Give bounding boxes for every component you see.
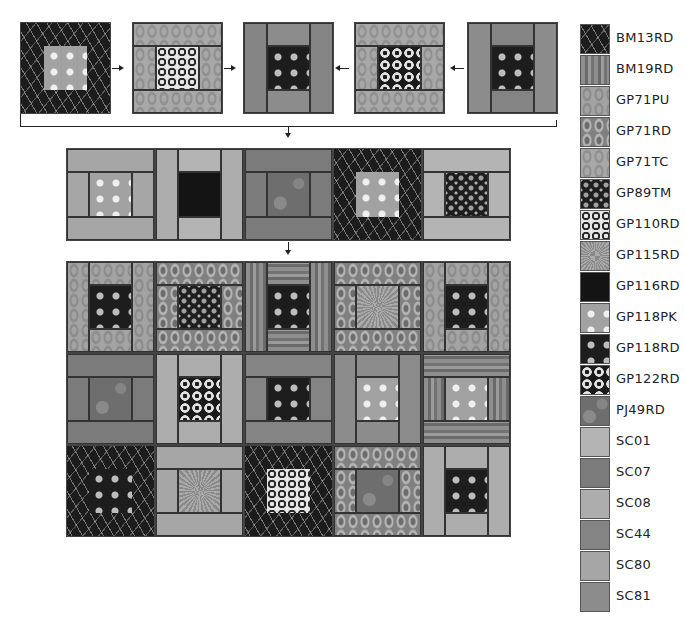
legend-label: SC81 xyxy=(616,588,651,603)
left-strip xyxy=(423,262,445,352)
quilt-block-r2c4 xyxy=(333,353,422,445)
center-square xyxy=(89,172,132,217)
fabric-swatch xyxy=(580,427,610,457)
right-strip xyxy=(132,172,154,217)
top-strip xyxy=(423,149,510,172)
center-square xyxy=(267,285,310,329)
middle-block-1 xyxy=(66,148,155,241)
arrow-shaft xyxy=(340,68,349,69)
bottom-strip xyxy=(133,90,222,113)
fabric-swatch xyxy=(580,551,610,581)
middle-block-2 xyxy=(155,148,244,241)
left-strip xyxy=(156,149,178,240)
center-square xyxy=(178,172,221,217)
top-strip xyxy=(245,149,332,172)
fabric-swatch xyxy=(580,582,610,612)
bottom-strip xyxy=(156,513,243,536)
arrow-left-icon xyxy=(450,65,455,71)
top-strip xyxy=(156,262,243,285)
middle-block-3 xyxy=(244,148,333,241)
arrow-shaft xyxy=(288,242,289,250)
left-strip xyxy=(244,23,267,113)
right-strip xyxy=(534,23,557,113)
left-strip xyxy=(156,354,178,444)
quilt-block-r1c3 xyxy=(244,261,333,353)
quilt-block-r2c3 xyxy=(244,353,333,445)
legend-label: BM19RD xyxy=(616,61,674,76)
top-strip xyxy=(89,262,132,285)
right-strip xyxy=(488,262,510,352)
bracket-right xyxy=(556,120,557,127)
center-square xyxy=(445,172,488,217)
center-square xyxy=(356,172,399,217)
legend-item: GP115RD xyxy=(580,241,680,271)
right-strip xyxy=(199,46,222,90)
right-strip xyxy=(310,377,332,421)
bottom-strip xyxy=(356,421,399,444)
center-square xyxy=(445,377,488,421)
center-square xyxy=(267,377,310,421)
legend-item: GP71TC xyxy=(580,148,680,178)
right-strip xyxy=(221,469,243,513)
legend-item: PJ49RD xyxy=(580,396,680,426)
arrow-right-icon xyxy=(231,65,236,71)
quilt-block-r3c4 xyxy=(333,445,422,537)
center-square xyxy=(89,377,132,421)
left-strip xyxy=(156,469,178,513)
legend-label: GP118RD xyxy=(616,340,680,355)
top-block-5 xyxy=(467,22,558,114)
quilt-block-r1c5 xyxy=(422,261,511,353)
top-strip xyxy=(67,149,154,172)
legend-label: GP71TC xyxy=(616,154,669,169)
bottom-strip xyxy=(334,513,421,536)
quilt-block-r2c5 xyxy=(422,353,511,445)
center-square xyxy=(356,285,399,329)
bottom-strip xyxy=(245,421,332,444)
bottom-strip xyxy=(267,90,310,113)
left-strip xyxy=(468,23,491,113)
bottom-strip xyxy=(156,329,243,352)
center-square xyxy=(89,285,132,329)
top-strip xyxy=(156,446,243,469)
top-strip xyxy=(491,23,534,46)
top-block-3 xyxy=(243,22,334,114)
center-square xyxy=(491,46,534,90)
top-block-4 xyxy=(354,22,445,114)
right-strip xyxy=(221,354,243,444)
fabric-swatch xyxy=(580,148,610,178)
center-square xyxy=(445,285,488,329)
legend-label: SC44 xyxy=(616,526,651,541)
fabric-swatch xyxy=(580,458,610,488)
right-strip xyxy=(221,149,243,240)
left-strip xyxy=(67,172,89,217)
bottom-strip xyxy=(267,329,310,352)
right-strip xyxy=(421,46,444,90)
quilt-block-r3c5 xyxy=(422,445,511,537)
quilt-block-r3c2 xyxy=(155,445,244,537)
center-square xyxy=(178,377,221,421)
right-strip xyxy=(221,285,243,329)
legend-item: BM19RD xyxy=(580,55,680,85)
right-strip xyxy=(399,469,421,513)
legend-item: SC08 xyxy=(580,489,680,519)
bottom-strip xyxy=(67,421,154,444)
right-strip xyxy=(132,262,154,352)
fabric-swatch xyxy=(580,396,610,426)
quilt-block-r2c2 xyxy=(155,353,244,445)
bottom-strip xyxy=(67,217,154,240)
legend-label: GP118PK xyxy=(616,309,677,324)
center-square xyxy=(267,172,310,217)
fabric-swatch xyxy=(580,179,610,209)
top-block-2 xyxy=(132,22,223,114)
arrow-down-icon xyxy=(285,133,291,138)
legend-item: BM13RD xyxy=(580,24,680,54)
fabric-swatch xyxy=(580,365,610,395)
top-strip xyxy=(356,354,399,377)
quilt-block-r1c2 xyxy=(155,261,244,353)
bottom-strip xyxy=(89,329,132,352)
center-square xyxy=(178,285,221,329)
top-strip xyxy=(334,262,421,285)
arrow-right-icon xyxy=(119,65,124,71)
left-strip xyxy=(245,172,267,217)
fabric-swatch xyxy=(580,241,610,271)
